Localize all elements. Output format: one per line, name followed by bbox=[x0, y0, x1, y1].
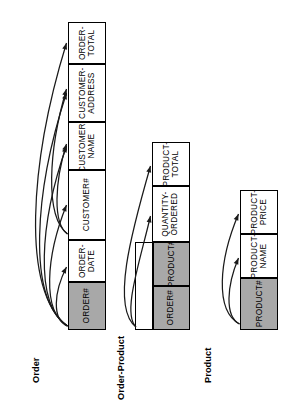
attribute-label: CUSTOMER# bbox=[82, 178, 91, 231]
entity-label-product: Product bbox=[203, 348, 213, 383]
attribute-label: CUSTOMER-ADDRESS bbox=[78, 67, 96, 118]
dependency-arrow-head bbox=[62, 43, 67, 50]
attribute-label: ORDER-TOTAL bbox=[78, 26, 96, 60]
attribute-cell: PRODUCT# bbox=[152, 242, 190, 286]
dependency-arrow-head bbox=[62, 144, 67, 151]
dependency-arrow-head bbox=[146, 166, 151, 173]
attribute-label: PRODUCT-NAME bbox=[250, 234, 268, 278]
attribute-label: QUANTITY-ORDERED bbox=[162, 191, 180, 236]
attribute-label: ORDER-DATE bbox=[78, 244, 96, 278]
attribute-cell: PRODUCT# bbox=[240, 278, 278, 330]
dependency-arrow-line bbox=[229, 258, 240, 324]
dependency-arrow-line bbox=[52, 89, 68, 234]
diagram-canvas: ORDER#ORDER-DATECUSTOMER#CUSTOMER-NAMECU… bbox=[0, 0, 299, 415]
entity-label-order: Order bbox=[31, 357, 41, 383]
composite-key-bracket bbox=[135, 242, 154, 330]
dependency-arrow-line bbox=[36, 43, 68, 326]
entity-label-order-product: Order-Product bbox=[116, 336, 126, 400]
dependency-arrow-line bbox=[57, 144, 68, 234]
dependency-arrow-line bbox=[50, 205, 68, 326]
dependency-arrow-head bbox=[62, 146, 67, 153]
dependency-arrow-head bbox=[234, 258, 239, 265]
attribute-label: PRODUCT# bbox=[166, 242, 175, 286]
attribute-cell: ORDER-DATE bbox=[68, 240, 106, 282]
attribute-label: PRODUCT-TOTAL bbox=[162, 142, 180, 186]
attribute-label: PRODUCT-PRICE bbox=[250, 190, 268, 234]
dependency-arrow-head bbox=[234, 214, 239, 221]
attribute-cell: PRODUCT-NAME bbox=[240, 234, 278, 278]
attribute-label: CUSTOMER-NAME bbox=[78, 122, 96, 170]
attribute-cell: ORDER# bbox=[68, 282, 106, 330]
dependency-arrow-head bbox=[62, 89, 67, 96]
dependency-arrow-line bbox=[56, 267, 67, 326]
attribute-cell: PRODUCT-TOTAL bbox=[152, 142, 190, 186]
attribute-cell: ORDER-TOTAL bbox=[68, 22, 106, 64]
attribute-label: ORDER# bbox=[166, 290, 175, 325]
dependency-arrow-head bbox=[62, 205, 67, 212]
attribute-cell: CUSTOMER# bbox=[68, 170, 106, 240]
attribute-cell: CUSTOMER-NAME bbox=[68, 122, 106, 170]
dependency-arrow-line bbox=[40, 93, 68, 326]
dependency-arrow-head bbox=[62, 93, 67, 100]
attribute-cell: PRODUCT-PRICE bbox=[240, 190, 278, 234]
attribute-cell: CUSTOMER-ADDRESS bbox=[68, 64, 106, 122]
dependency-arrow-line bbox=[44, 146, 67, 326]
dependency-arrow-head bbox=[61, 267, 66, 274]
dependency-arrow-line bbox=[222, 214, 239, 324]
attribute-label: ORDER# bbox=[82, 288, 91, 323]
dependency-arrow-head bbox=[147, 216, 152, 223]
attribute-label: PRODUCT# bbox=[254, 281, 263, 328]
attribute-cell: ORDER# bbox=[152, 286, 190, 330]
attribute-cell: QUANTITY-ORDERED bbox=[152, 186, 190, 242]
